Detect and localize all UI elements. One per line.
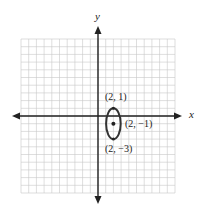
y-axis-label: y [95,11,100,22]
cropped-header-text [0,0,206,2]
top-vertex-label: (2, 1) [105,92,127,102]
coordinate-plane [0,0,206,212]
center-point [111,122,115,126]
top-vertex-point [112,107,115,110]
x-axis-right-arrow-icon [174,113,182,120]
x-axis-label: x [189,109,194,120]
bottom-vertex-label: (2, −3) [105,144,132,154]
bottom-vertex-point [112,138,115,141]
center-label: (2, −1) [125,119,152,129]
x-axis-left-arrow-icon [12,113,20,120]
y-axis-top-arrow-icon [95,26,102,34]
y-axis-bottom-arrow-icon [95,196,102,204]
